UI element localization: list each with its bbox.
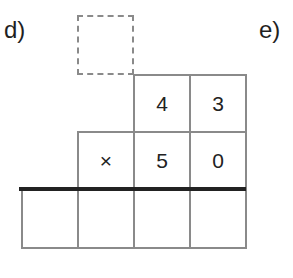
multiplier-ones-cell: 0 (189, 131, 247, 191)
sum-line (19, 187, 246, 191)
digit-cell-ones: 3 (189, 74, 247, 133)
answer-cell-tens[interactable] (133, 189, 191, 249)
digit-cell-tens: 4 (133, 74, 191, 133)
answer-cell-ones[interactable] (189, 189, 247, 249)
answer-cell-thousands[interactable] (21, 189, 79, 249)
problem-label-d: d) (4, 16, 25, 44)
answer-cell-hundreds[interactable] (77, 189, 135, 249)
operator-cell: × (77, 131, 135, 191)
multiplier-tens-cell: 5 (133, 131, 191, 191)
carry-box[interactable] (77, 15, 134, 75)
problem-label-e: e) (259, 16, 280, 44)
